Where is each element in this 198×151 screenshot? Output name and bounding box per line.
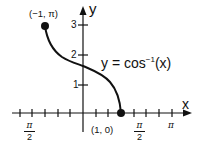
endpoint-bottom-marker: [117, 109, 125, 117]
bottom-point-label: (1, 0): [91, 125, 113, 135]
x-tick-label-pi: π: [168, 121, 174, 130]
x-axis: [12, 109, 192, 117]
x-axis-label: x: [182, 97, 189, 111]
fraction-denominator: 2: [27, 133, 32, 142]
function-label-lhs: y = cos: [101, 55, 146, 71]
function-label: y = cos−1(x): [101, 56, 171, 70]
y-tick-label-1: 1: [73, 80, 79, 90]
endpoint-top-marker: [41, 22, 49, 30]
x-tick-label-neg-pi-over-2: π 2: [24, 121, 35, 142]
y-tick-label-2: 2: [71, 50, 77, 60]
y-axis-label: y: [89, 1, 97, 16]
function-label-arg: (x): [155, 55, 171, 71]
y-tick-label-3: 3: [71, 20, 77, 30]
fraction-denominator: 2: [137, 133, 142, 142]
x-tick-label-pi-over-2: π 2: [134, 121, 145, 142]
fraction-numerator: π: [26, 121, 34, 130]
top-point-label: (−1, π): [29, 9, 58, 19]
fraction-numerator: π: [136, 121, 144, 130]
function-label-exponent: −1: [146, 55, 155, 64]
